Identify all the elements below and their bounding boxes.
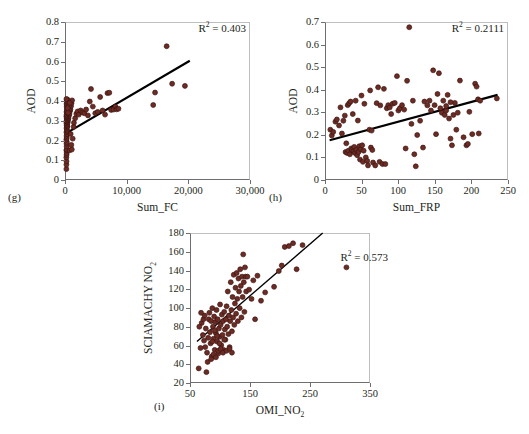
x-tick-h: [362, 180, 363, 184]
data-point: [300, 243, 305, 248]
x-axis-title-g: Sum_FC: [137, 201, 178, 213]
data-point: [338, 105, 343, 110]
data-point: [383, 162, 388, 167]
data-point: [436, 71, 441, 76]
x-tick-h: [398, 180, 399, 184]
data-point: [222, 309, 227, 314]
data-point: [418, 118, 423, 123]
data-point: [95, 109, 100, 114]
data-point: [394, 74, 399, 79]
x-tick-h: [471, 180, 472, 184]
r2-annotation-g: R2 = 0.403: [198, 20, 246, 34]
data-point: [373, 163, 378, 168]
y-tick-label-i: 60: [174, 340, 185, 351]
data-point: [355, 118, 360, 123]
data-point: [67, 100, 72, 105]
data-point: [467, 109, 472, 114]
data-point: [68, 131, 73, 136]
data-point: [151, 103, 156, 108]
x-tick-label-h: 50: [356, 186, 367, 197]
data-point: [476, 131, 481, 136]
data-point: [198, 346, 203, 351]
y-axis-title-i: SCIAMACHY NO2: [142, 262, 157, 354]
y-tick-label-i: 160: [168, 247, 184, 258]
y-tick-g: [61, 22, 65, 23]
y-tick-label-g: 0.6: [46, 56, 59, 67]
data-point: [454, 127, 459, 132]
data-point: [413, 164, 418, 169]
x-tick-g: [65, 180, 66, 184]
data-point: [445, 92, 450, 97]
y-tick-g: [61, 121, 65, 122]
data-point: [369, 128, 374, 133]
data-point: [344, 265, 349, 270]
y-tick-h: [321, 45, 325, 46]
x-tick-h: [325, 180, 326, 184]
data-point: [342, 113, 347, 118]
x-tick-g: [250, 180, 251, 184]
y-tick-label-g: 0.2: [46, 135, 59, 146]
data-point: [410, 98, 415, 103]
trendline-g: [66, 61, 190, 134]
y-tick-label-i: 40: [174, 359, 185, 370]
x-tick-i: [250, 383, 251, 387]
y-tick-h: [321, 22, 325, 23]
data-point: [366, 163, 371, 168]
data-point: [208, 330, 213, 335]
data-point: [229, 329, 234, 334]
data-point: [461, 135, 466, 140]
data-point: [220, 333, 225, 338]
data-point: [224, 304, 229, 309]
data-point: [90, 104, 95, 109]
data-point: [241, 280, 246, 285]
y-tick-g: [61, 160, 65, 161]
data-point: [421, 145, 426, 150]
x-axis-title-h: Sum_FRP: [393, 201, 440, 213]
data-point: [153, 90, 158, 95]
data-point: [98, 95, 103, 100]
x-tick-label-i: 250: [302, 389, 318, 400]
x-axis-title-i-main: OMI_NO: [256, 404, 301, 416]
y-tick-i: [186, 233, 190, 234]
y-tick-label-h: 0.7: [306, 17, 319, 28]
r2-value-h: = 0.2111: [466, 22, 504, 34]
data-point: [409, 121, 414, 126]
y-tick-i: [186, 346, 190, 347]
scatter-canvas-g: [66, 23, 249, 179]
y-tick-label-h: 0.5: [306, 62, 319, 73]
x-tick-label-g: 20,000: [174, 186, 203, 197]
data-point: [235, 296, 240, 301]
y-axis-title-i-sub: 2: [149, 262, 158, 266]
data-point: [378, 103, 383, 108]
data-point: [225, 324, 230, 329]
data-point: [240, 295, 245, 300]
x-tick-h: [508, 180, 509, 184]
x-tick-label-g: 30,000: [236, 186, 265, 197]
data-point: [370, 148, 375, 153]
panel-g: Sum_FC AOD R2 = 0.403 00.10.20.30.40.50.…: [0, 0, 265, 215]
data-point: [65, 106, 70, 111]
data-point: [215, 317, 220, 322]
y-tick-i: [186, 308, 190, 309]
data-point: [241, 252, 246, 257]
y-axis-title-i-main: SCIAMACHY NO: [142, 266, 154, 354]
data-point: [494, 96, 499, 101]
y-tick-label-h: 0: [314, 175, 319, 186]
x-tick-label-h: 0: [322, 186, 327, 197]
data-point: [434, 132, 439, 137]
data-point: [242, 309, 247, 314]
panel-h: Sum_FRP AOD R2 = 0.2111 00.10.20.30.40.5…: [265, 0, 529, 215]
data-point: [247, 287, 252, 292]
y-tick-g: [61, 42, 65, 43]
data-point: [259, 298, 264, 303]
data-point: [230, 295, 235, 300]
data-point: [215, 334, 220, 339]
r2-annotation-h: R2 = 0.2111: [452, 20, 504, 34]
data-point: [203, 345, 208, 350]
x-tick-g: [188, 180, 189, 184]
data-point: [412, 152, 417, 157]
data-point: [444, 104, 449, 109]
data-point: [331, 129, 336, 134]
data-point: [237, 306, 242, 311]
data-point: [360, 143, 365, 148]
